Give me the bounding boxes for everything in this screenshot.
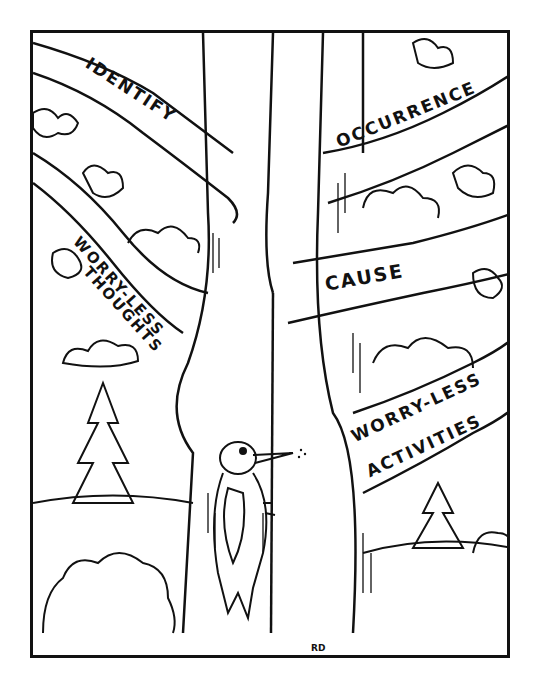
artist-signature: RD: [311, 643, 325, 653]
illustration-frame: IDENTIFY WORRY-LESS THOUGHTS OCCURRENCE …: [30, 30, 510, 658]
woodpecker: [214, 442, 293, 618]
cloud: [128, 227, 199, 253]
tree-drawing: [33, 33, 510, 658]
